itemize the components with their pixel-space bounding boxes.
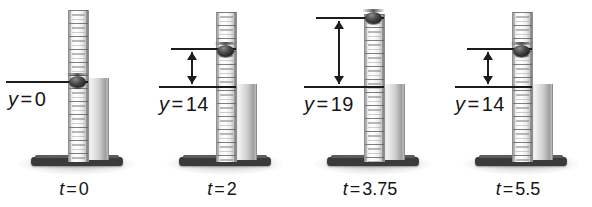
height-variable: y bbox=[304, 93, 315, 115]
arrow-head-up bbox=[483, 52, 493, 60]
ball bbox=[217, 45, 234, 57]
height-value: 0 bbox=[35, 88, 47, 110]
measuring-scale bbox=[364, 14, 385, 162]
arrow-head-down bbox=[187, 76, 197, 84]
height-value: 14 bbox=[186, 93, 209, 115]
ball bbox=[69, 76, 86, 88]
panel-t375: y=19 t=3.75 bbox=[296, 0, 444, 207]
arrow-shaft bbox=[338, 21, 340, 84]
time-value: 5.5 bbox=[515, 179, 540, 199]
height-variable: y bbox=[455, 93, 466, 115]
time-label: t=0 bbox=[0, 179, 148, 200]
time-value: 3.75 bbox=[362, 179, 397, 199]
measurement-arrow bbox=[332, 21, 345, 84]
reference-line-lower bbox=[159, 86, 236, 88]
time-label: t=5.5 bbox=[444, 179, 592, 200]
time-equals: = bbox=[501, 179, 516, 199]
scale-edge-left bbox=[365, 14, 367, 162]
scale-edge-right bbox=[86, 10, 88, 162]
time-equals: = bbox=[212, 179, 227, 199]
reference-line-lower bbox=[455, 86, 532, 88]
panel-t0: y=0 t=0 bbox=[0, 0, 148, 207]
height-equals: = bbox=[466, 93, 482, 115]
arrow-head-down bbox=[334, 76, 344, 84]
height-label: y=19 bbox=[304, 93, 354, 116]
time-variable: t bbox=[343, 179, 348, 199]
height-value: 19 bbox=[331, 93, 354, 115]
height-equals: = bbox=[170, 93, 186, 115]
height-variable: y bbox=[159, 93, 170, 115]
measurement-arrow bbox=[481, 52, 494, 84]
time-value: 2 bbox=[227, 179, 237, 199]
height-equals: = bbox=[19, 88, 35, 110]
height-value: 14 bbox=[482, 93, 505, 115]
measurement-arrow bbox=[185, 52, 198, 84]
time-variable: t bbox=[496, 179, 501, 199]
ball bbox=[513, 45, 530, 57]
panel-t2: y=14 t=2 bbox=[148, 0, 296, 207]
arrow-head-up bbox=[334, 21, 344, 29]
panel-t55: y=14 t=5.5 bbox=[444, 0, 592, 207]
height-label: y=14 bbox=[159, 93, 209, 116]
scale-edge-right bbox=[382, 14, 384, 162]
time-value: 0 bbox=[79, 179, 89, 199]
ball bbox=[365, 12, 382, 24]
time-label: t=2 bbox=[148, 179, 296, 200]
height-label: y=0 bbox=[8, 88, 46, 111]
height-label: y=14 bbox=[455, 93, 505, 116]
projectile-height-figure: y=0 t=0 y=14 t=2 bbox=[0, 0, 592, 207]
arrow-head-down bbox=[483, 76, 493, 84]
reference-line-lower bbox=[304, 86, 384, 88]
height-variable: y bbox=[8, 88, 19, 110]
time-label: t=3.75 bbox=[296, 179, 444, 200]
time-equals: = bbox=[64, 179, 79, 199]
arrow-head-up bbox=[187, 52, 197, 60]
height-equals: = bbox=[315, 93, 331, 115]
time-equals: = bbox=[348, 179, 363, 199]
